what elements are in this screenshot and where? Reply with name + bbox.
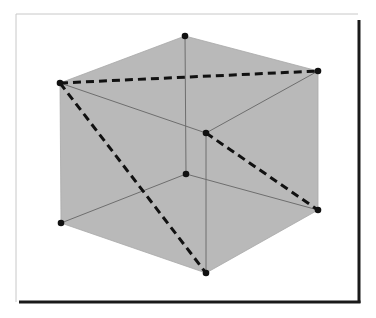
vertex-top-front (203, 130, 210, 137)
cube-diagram (0, 0, 376, 318)
vertex-top-right (315, 68, 322, 75)
vertex-bottom-left (58, 220, 65, 227)
vertex-bottom-front (203, 270, 210, 277)
vertex-bottom-right (315, 207, 322, 214)
vertex-top-back (182, 33, 189, 40)
vertex-bottom-back (183, 171, 190, 178)
vertex-top-left (57, 80, 64, 87)
